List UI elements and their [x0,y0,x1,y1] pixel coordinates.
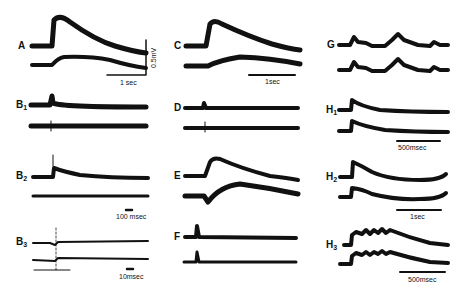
panel-label-G: G [327,40,335,50]
traces-canvas [0,0,467,298]
scale-label-H3: 500msec [408,276,436,284]
trace-B2 [33,155,148,210]
panel-label-F: F [174,232,180,242]
scale-label-H1: 500msec [398,144,426,152]
vscale-label-A: 0.5mV [150,48,157,68]
trace-G [339,34,448,71]
trace-A [32,17,146,75]
panel-label-B1: B1 [16,100,27,113]
trace-H3 [340,229,448,272]
panel-label-H1: H1 [326,105,337,118]
trace-C [186,22,300,76]
panel-label-B3: B3 [16,237,27,250]
panel-label-A: A [18,41,25,51]
trace-B3 [33,228,148,272]
trace-H1 [339,100,448,141]
electrophysiology-figure: A B1 B2 B3 C D E F G H1 H2 H3 1 sec 0.5m… [0,0,467,298]
trace-D [185,103,298,132]
trace-B1 [31,96,146,131]
panel-label-D: D [174,103,181,113]
trace-H2 [340,162,446,210]
scale-label-B3: 10msec [119,273,144,281]
trace-F [184,226,296,262]
scale-label-H2: 1sec [410,213,425,221]
scale-label-A: 1 sec [120,79,137,87]
panel-label-H2: H2 [326,172,337,185]
panel-label-C: C [174,41,181,51]
scale-label-C: 1sec [265,78,280,86]
panel-label-B2: B2 [16,171,27,184]
panel-label-E: E [174,171,181,181]
panel-label-H3: H3 [326,240,337,253]
scale-label-B2: 100 msec [116,213,146,221]
trace-E [185,158,298,202]
